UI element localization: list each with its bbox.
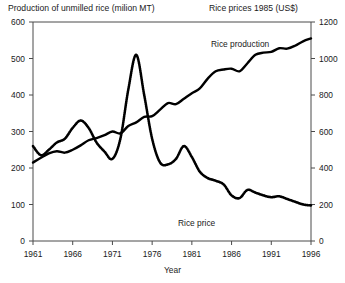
right-tick-label: 0 (319, 237, 324, 245)
x-tick-label: 1991 (251, 250, 291, 258)
left-axis-ticks (29, 22, 33, 241)
right-tick-label: 800 (319, 91, 333, 99)
right-tick-label: 1200 (319, 18, 338, 26)
plot-area (0, 0, 345, 283)
right-axis-ticks (311, 22, 315, 241)
series-line-rice-price (33, 55, 311, 206)
right-tick-label: 600 (319, 128, 333, 136)
chart-figure: Production of unmilled rice (milion MT) … (0, 0, 345, 283)
x-tick-label: 1971 (92, 250, 132, 258)
left-tick-label: 200 (0, 164, 25, 172)
x-tick-label: 1976 (132, 250, 172, 258)
series-line-rice-production (33, 38, 311, 162)
annotation-rice-production: Rice production (211, 40, 269, 48)
x-axis-ticks (33, 241, 311, 245)
plot-frame (33, 22, 311, 241)
right-tick-label: 200 (319, 201, 333, 209)
left-tick-label: 500 (0, 55, 25, 63)
x-tick-label: 1986 (212, 250, 252, 258)
x-axis-title: Year (0, 266, 345, 274)
left-tick-label: 100 (0, 201, 25, 209)
x-tick-label: 1981 (172, 250, 212, 258)
left-tick-label: 300 (0, 128, 25, 136)
x-tick-label: 1966 (53, 250, 93, 258)
right-tick-label: 400 (319, 164, 333, 172)
x-tick-label: 1961 (13, 250, 53, 258)
x-tick-label: 1996 (291, 250, 331, 258)
left-tick-label: 600 (0, 18, 25, 26)
left-tick-label: 400 (0, 91, 25, 99)
annotation-rice-price: Rice price (178, 219, 215, 227)
right-tick-label: 1000 (319, 55, 338, 63)
left-tick-label: 0 (0, 237, 25, 245)
data-series-group (33, 38, 311, 205)
